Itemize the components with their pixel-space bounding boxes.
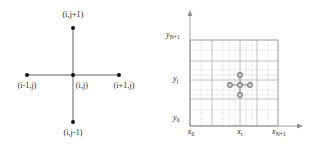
grid-stencil-node-west <box>228 83 233 88</box>
axis-label-x-mid-sub: i <box>241 131 243 137</box>
grid-stencil-node-south <box>238 93 243 98</box>
x-axis-arrowhead <box>297 124 303 129</box>
domain-boundary-box <box>190 40 278 126</box>
axis-label-x-right: xN+1 <box>272 128 286 136</box>
axis-label-y-mid-sub: j <box>177 78 179 84</box>
axis-label-y-top: yN+1 <box>166 31 180 39</box>
stencil-node-south <box>71 120 75 124</box>
stencil-label-east: (i+1,j) <box>114 82 135 90</box>
stencil-label-south: (i,j-1) <box>63 129 82 137</box>
axis-label-x-left-sub: 0 <box>191 131 194 137</box>
stencil-and-grid-figure: (i,j+1) (i-1,j) (i,j) (i+1,j) (i,j-1) <box>0 0 320 153</box>
grid-stencil-node-east <box>248 83 253 88</box>
stencil-node-west <box>25 73 29 77</box>
five-point-stencil-panel: (i,j+1) (i-1,j) (i,j) (i+1,j) (i,j-1) <box>0 0 160 153</box>
axis-label-y-bottom: y0 <box>173 114 180 122</box>
axis-label-x-left: x0 <box>188 128 195 136</box>
stencil-node-center <box>71 73 75 77</box>
grid-stencil-node-center <box>238 83 243 88</box>
y-axis-arrowhead <box>188 10 193 16</box>
stencil-node-east <box>117 73 121 77</box>
axis-label-y-top-sub: N+1 <box>170 34 180 40</box>
axis-label-x-mid: xi <box>237 128 242 136</box>
axis-label-x-right-sub: N+1 <box>276 131 286 137</box>
stencil-label-north: (i,j+1) <box>63 11 84 19</box>
stencil-node-north <box>71 26 75 30</box>
axis-label-y-mid: yj <box>173 75 178 83</box>
axis-label-y-bottom-sub: 0 <box>177 117 180 123</box>
grid-domain-panel: yN+1 yj y0 x0 xi xN+1 <box>160 0 320 153</box>
grid-stencil-node-north <box>238 73 243 78</box>
stencil-label-west: (i-1,j) <box>17 82 36 90</box>
stencil-label-center: (i,j) <box>76 82 88 90</box>
